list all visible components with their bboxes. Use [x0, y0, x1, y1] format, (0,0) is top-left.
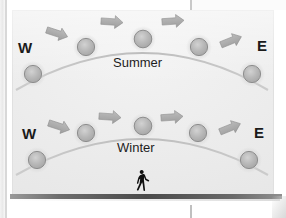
- summer-sun-2: [73, 34, 99, 60]
- frame-corner-shade: [272, 196, 286, 218]
- winter-arrow-1: [47, 117, 72, 136]
- summer-sun-4: [186, 34, 212, 60]
- winter-arrow-3: [161, 110, 184, 124]
- summer-sun-3-noon: [130, 26, 156, 52]
- winter-arrow-2: [99, 110, 122, 124]
- illustration-root: W E Summer W E Winter: [0, 0, 286, 218]
- summer-sun-5-east: [239, 61, 265, 87]
- summer-west-label: W: [18, 40, 32, 55]
- summer-arrow-1: [45, 24, 70, 43]
- winter-west-label: W: [22, 126, 36, 141]
- winter-sun-3-noon: [130, 113, 156, 139]
- sun-path-scene: [0, 0, 286, 218]
- winter-sun-4: [185, 120, 211, 146]
- summer-sun-1-west: [20, 61, 46, 87]
- winter-sun-5-east: [236, 147, 262, 173]
- winter-sun-2: [73, 120, 99, 146]
- summer-label: Summer: [113, 56, 162, 69]
- ground-shadow: [12, 199, 280, 201]
- summer-path-group: [16, 14, 268, 90]
- summer-arrow-3: [162, 14, 185, 28]
- winter-east-label: E: [254, 125, 264, 140]
- summer-arrow-4: [219, 31, 244, 51]
- winter-sun-1-west: [24, 147, 50, 173]
- summer-east-label: E: [257, 38, 267, 53]
- walking-person-icon: [137, 170, 149, 191]
- winter-label: Winter: [117, 141, 155, 154]
- summer-arrow-2: [101, 15, 124, 29]
- winter-arrow-4: [218, 118, 243, 138]
